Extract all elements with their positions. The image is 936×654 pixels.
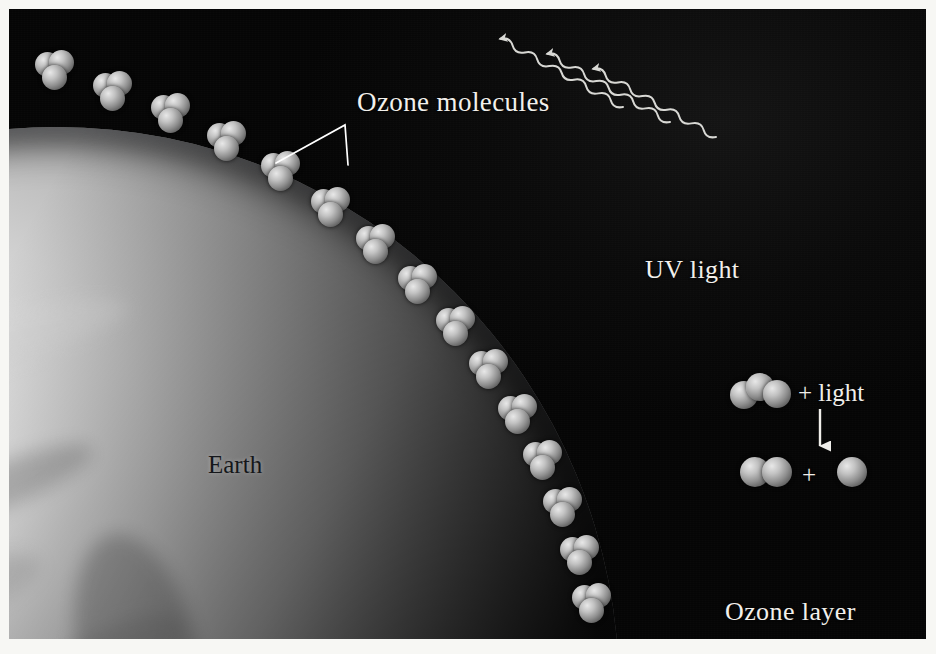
figure-page: Earth: [0, 0, 936, 654]
uv-ray: [588, 66, 721, 139]
ozone-layer-label: Ozone layer: [725, 597, 856, 627]
oxygen-atom: [762, 457, 792, 487]
reaction-plus-label: +: [802, 461, 816, 489]
ozone-molecules-leader-lines: [276, 125, 348, 165]
diagram-plate: Earth: [9, 9, 926, 639]
oxygen-atom: [763, 380, 791, 408]
uv-ray: [542, 51, 675, 124]
reaction-ozone-molecule: [730, 373, 796, 413]
ozone-molecules-label: Ozone molecules: [357, 87, 550, 118]
reaction-oxygen-atom: [837, 457, 869, 489]
oxygen-atom: [837, 457, 867, 487]
reaction-oxygen-molecule: [740, 457, 798, 491]
reaction-plus-light-label: + light: [798, 379, 864, 407]
uv-light-label: UV light: [645, 255, 739, 285]
